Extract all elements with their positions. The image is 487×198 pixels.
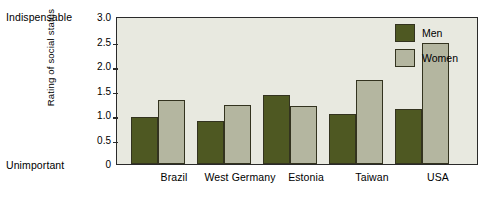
bar-brazil-men — [131, 117, 158, 164]
bar-taiwan-men — [329, 114, 356, 164]
y-tick-mark — [113, 44, 118, 46]
legend-swatch-men — [395, 24, 415, 42]
y-tick-mark — [113, 142, 118, 144]
y-tick-mark — [113, 117, 118, 119]
bar-estonia-women — [290, 106, 317, 164]
legend-label: Women — [422, 53, 458, 64]
bar-chart-figure: Indispensable Unimportant Rating of soci… — [0, 0, 487, 198]
axis-anchor-bottom-label: Unimportant — [6, 160, 64, 171]
bar-estonia-men — [263, 95, 290, 164]
bar-west-germany-women — [224, 105, 251, 164]
y-tick-label: 3.0 — [97, 13, 111, 23]
axis-anchor-top-label: Indispensable — [6, 12, 72, 23]
y-tick-mark — [113, 93, 118, 95]
y-tick-label: 0 — [105, 160, 111, 170]
y-tick-label: 2.5 — [97, 38, 111, 48]
y-axis-title: Rating of social status — [45, 0, 56, 133]
bar-brazil-women — [158, 100, 185, 164]
bar-west-germany-men — [197, 121, 224, 164]
legend-item-men: Men — [395, 24, 473, 42]
legend-item-women: Women — [395, 49, 473, 67]
x-category-label: USA — [388, 172, 487, 183]
legend-label: Men — [422, 28, 442, 39]
chart-legend: MenWomen — [395, 24, 473, 74]
y-tick-label: 1.5 — [97, 87, 111, 97]
y-axis-tick-labels: 00.51.01.52.02.53.0 — [83, 0, 111, 198]
y-tick-label: 2.0 — [97, 62, 111, 72]
bar-taiwan-women — [356, 80, 383, 164]
legend-swatch-women — [395, 49, 415, 67]
y-tick-mark — [113, 68, 118, 70]
bar-usa-men — [395, 109, 422, 164]
y-tick-label: 0.5 — [97, 136, 111, 146]
y-tick-label: 1.0 — [97, 111, 111, 121]
